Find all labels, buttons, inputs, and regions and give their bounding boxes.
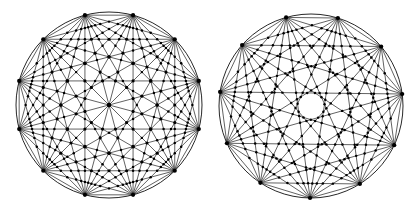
- chord-crossing-dot: [292, 70, 294, 72]
- chord-crossing-dot: [70, 170, 72, 172]
- boundary-vertex-dot: [83, 13, 87, 17]
- chord-crossing-dot: [297, 44, 299, 46]
- chord-crossing-dot: [141, 29, 143, 31]
- chord-crossing-dot: [189, 95, 191, 97]
- chord-crossing-dot: [167, 49, 169, 51]
- chord-crossing-dot: [353, 169, 355, 171]
- chord-crossing-dot: [31, 80, 33, 82]
- chord-crossing-dot: [27, 95, 29, 97]
- chord-crossing-dot: [288, 149, 290, 151]
- chord-crossing-dot: [314, 166, 316, 168]
- chord-crossing-dot: [285, 143, 287, 145]
- chord-crossing-dot: [248, 95, 250, 97]
- chord-crossing-dot: [114, 163, 116, 165]
- chord-crossing-dot: [298, 115, 300, 117]
- chord-crossing-dot: [306, 64, 308, 66]
- chord-crossing-dot: [185, 128, 187, 130]
- chord-crossing-dot: [174, 94, 176, 96]
- chord-crossing-dot: [108, 180, 110, 182]
- chord-crossing-dot: [344, 34, 346, 36]
- chord-crossing-dot: [87, 182, 89, 184]
- chord-crossings: [230, 24, 392, 185]
- chord-crossing-dot: [182, 137, 184, 139]
- chord-crossing-dot: [252, 130, 254, 132]
- chord-crossing-dot: [346, 155, 348, 157]
- chord-crossing-dot: [132, 42, 134, 44]
- boundary-vertex-dot: [197, 79, 201, 83]
- chord-crossing-dot: [341, 143, 343, 145]
- chord-crossing-dot: [138, 170, 140, 172]
- chord-crossing-dot: [156, 139, 158, 141]
- chord-crossing-dot: [122, 128, 124, 130]
- chord-crossing-dot: [271, 156, 273, 158]
- chord-crossing-dot: [149, 44, 151, 46]
- chord-crossing-dot: [381, 136, 383, 138]
- chord-crossing-dot: [265, 142, 267, 144]
- boundary-vertex-dot: [218, 90, 222, 94]
- chord-crossing-dot: [48, 158, 50, 160]
- chord-crossing-dot: [371, 101, 373, 103]
- chord-crossing-dot: [293, 143, 295, 145]
- chord-crossing-dot: [132, 158, 134, 160]
- chord-crossing-dot: [125, 86, 128, 89]
- chord-crossing-dot: [245, 74, 247, 76]
- chord-crossing-dot: [302, 56, 304, 58]
- chord-crossing-dot: [108, 20, 110, 22]
- chord-crossing-dot: [120, 149, 122, 151]
- chord-crossing-dot: [278, 127, 280, 129]
- chord-crossing-dot: [334, 143, 336, 145]
- chord-crossing-dot: [255, 134, 257, 136]
- chord-crossing-dot: [338, 92, 340, 94]
- chord-crossing-dot: [248, 157, 250, 159]
- chord-crossing-dot: [84, 166, 86, 168]
- chord-crossing-dot: [75, 46, 78, 49]
- chord-crossing-dot: [367, 127, 369, 129]
- chord-crossing-dot: [290, 102, 292, 104]
- chord-crossing-dot: [324, 45, 326, 47]
- chord-crossing-dot: [383, 132, 385, 134]
- chord-crossing-dot: [54, 59, 56, 61]
- chord-crossing-dot: [311, 24, 313, 26]
- chord-crossing-dot: [53, 80, 55, 82]
- chord-edge: [260, 94, 402, 183]
- chord-crossing-dot: [66, 32, 68, 34]
- chord-crossing-dot: [184, 104, 186, 106]
- chord-crossing-dot: [305, 169, 307, 171]
- chord-crossing-dot: [75, 29, 77, 31]
- chord-crossing-dot: [77, 170, 79, 172]
- chord-crossing-dot: [265, 168, 267, 170]
- chord-crossing-dot: [42, 94, 44, 96]
- chord-crossing-dot: [80, 104, 82, 106]
- chord-crossing-dot: [295, 92, 297, 94]
- chord-crossing-dot: [170, 156, 172, 158]
- chord-crossing-dot: [131, 61, 135, 65]
- chord-crossing-dot: [84, 181, 86, 183]
- chord-crossing-dot: [96, 35, 98, 37]
- chord-crossing-dot: [132, 118, 134, 120]
- chord-crossing-dot: [246, 83, 248, 85]
- chord-crossing-dot: [302, 145, 304, 147]
- chord-crossing-dot: [309, 125, 311, 127]
- chord-crossing-dot: [84, 118, 86, 120]
- chord-crossing-dot: [90, 25, 92, 27]
- chord-crossing-dot: [96, 59, 98, 61]
- chord-crossing-dot: [328, 71, 330, 73]
- chord-crossing-dot: [318, 56, 320, 58]
- chord-crossing-dot: [274, 83, 276, 85]
- chord-crossing-dot: [174, 66, 176, 68]
- chord-crossing-dot: [261, 67, 263, 69]
- chord-crossing-dot: [173, 103, 176, 106]
- chord-crossing-dot: [184, 76, 186, 78]
- chord-crossing-dot: [138, 38, 140, 40]
- chord-crossing-dot: [293, 78, 295, 80]
- chord-crossing-dot: [73, 152, 75, 154]
- chord-crossing-dot: [118, 38, 120, 40]
- chord-crossing-dot: [101, 176, 103, 178]
- chord-crossing-dot: [318, 135, 320, 137]
- chord-crossing-dot: [312, 45, 314, 47]
- chord-crossing-dot: [345, 174, 347, 176]
- boundary-vertex-dot: [400, 92, 404, 96]
- chord-crossing-dot: [174, 142, 176, 144]
- chord-crossing-dot: [300, 96, 302, 98]
- chord-crossing-dot: [180, 97, 182, 99]
